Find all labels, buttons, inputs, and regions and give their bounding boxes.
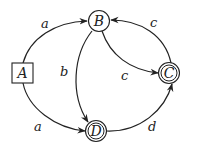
edge-b-to-d [76,31,92,122]
edge-a-to-d [23,83,85,131]
label-a-to-b: a [41,16,49,31]
node-b: B [89,11,110,32]
node-d: D [86,121,107,142]
edge-c-to-b [111,20,171,63]
node-a: A [12,63,33,83]
label-a-to-d: a [34,119,42,134]
svg-text:A: A [15,65,27,81]
label-b-to-d: b [60,64,68,79]
diagram-canvas: A B C D a a b c c d [0,0,197,149]
label-c-to-b: c [150,15,158,30]
svg-text:D: D [89,123,101,139]
edge-d-to-c [107,84,172,131]
label-d-to-c: d [148,119,156,134]
edge-b-to-c [102,31,158,73]
edge-a-to-b [23,21,87,63]
node-c: C [159,63,180,84]
state-diagram: A B C D a a b c c d [0,0,197,149]
svg-text:C: C [164,65,175,81]
svg-text:B: B [93,13,104,29]
label-b-to-c: c [121,68,129,83]
